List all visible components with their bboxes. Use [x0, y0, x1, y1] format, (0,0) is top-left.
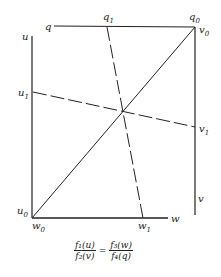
lhs-denominator: f₂(v): [74, 251, 96, 261]
dashed-line-q1-w1: [107, 27, 143, 218]
lhs-fraction: f₁(u) f₂(v): [74, 240, 96, 261]
formula: f₁(u) f₂(v) = f₃(w) f₄(q): [74, 240, 154, 261]
label-u1: u1: [18, 87, 29, 101]
q-axis: [54, 26, 195, 27]
equals-sign: =: [99, 246, 107, 256]
label-u: u: [22, 31, 28, 42]
label-w1: w1: [138, 220, 151, 234]
diagonal-line: [32, 27, 195, 218]
label-v0: v0: [199, 24, 210, 38]
rhs-denominator: f₄(q): [109, 251, 133, 261]
label-w: w: [171, 213, 180, 224]
rhs-numerator: f₃(w): [109, 240, 133, 251]
nomogram-diagram: q q1 q0 v0 u u1 v1 v u0 w0 w1 w: [0, 0, 221, 277]
label-u0: u0: [17, 205, 28, 219]
label-v1: v1: [199, 123, 209, 137]
label-v: v: [198, 193, 204, 204]
lhs-numerator: f₁(u): [74, 240, 96, 251]
label-q: q: [45, 21, 51, 32]
label-q0: q0: [189, 11, 200, 25]
label-w0: w0: [32, 220, 46, 234]
label-q1: q1: [103, 11, 114, 25]
rhs-fraction: f₃(w) f₄(q): [109, 240, 133, 261]
